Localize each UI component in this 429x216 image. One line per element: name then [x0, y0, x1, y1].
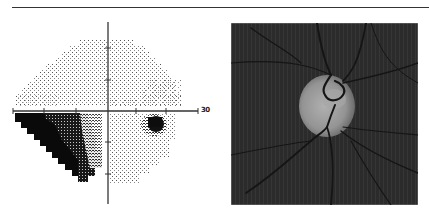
superior-field	[16, 40, 182, 106]
inferior-field	[15, 113, 176, 184]
visual-field-plot: 30	[0, 0, 215, 216]
fundus-svg	[231, 23, 418, 205]
optic-disc-photo	[231, 23, 418, 205]
scotoma-cluster	[141, 114, 167, 136]
visual-field-svg	[0, 0, 215, 216]
axis-label-30: 30	[201, 106, 210, 114]
